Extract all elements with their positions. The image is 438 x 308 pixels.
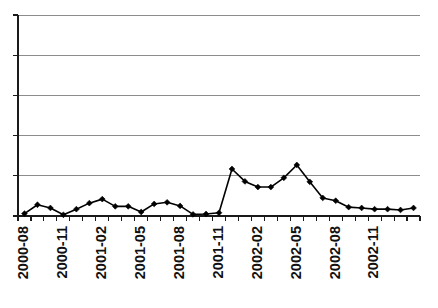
line-chart: 2000-082000-112001-022001-052001-082001-… xyxy=(0,0,438,308)
x-tick-label-6: 2002-02 xyxy=(249,226,265,279)
x-tick-label-5: 2001-11 xyxy=(210,226,226,278)
x-tick-label-7: 2002-05 xyxy=(288,226,304,279)
x-tick-label-9: 2002-11 xyxy=(365,226,381,278)
x-tick-label-8: 2002-08 xyxy=(327,226,343,279)
x-tick-label-3: 2001-05 xyxy=(132,226,148,279)
x-tick-label-0: 2000-08 xyxy=(15,226,31,279)
x-tick-label-4: 2001-08 xyxy=(171,226,187,279)
chart-canvas: 2000-082000-112001-022001-052001-082001-… xyxy=(0,0,438,308)
x-tick-label-1: 2000-11 xyxy=(54,226,70,278)
x-tick-label-2: 2001-02 xyxy=(93,226,109,279)
